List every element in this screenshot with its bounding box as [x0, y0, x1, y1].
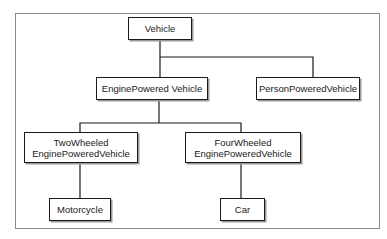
node-person-powered-vehicle: PersonPoweredVehicle	[256, 77, 360, 100]
node-motorcycle: Motorcycle	[49, 198, 111, 221]
node-two-wheeled-line1: TwoWheeled	[54, 137, 109, 148]
node-car: Car	[220, 198, 265, 221]
edge-engine-children	[80, 123, 241, 132]
node-two-wheeled-line2: EnginePoweredVehicle	[32, 148, 130, 159]
node-vehicle: Vehicle	[128, 17, 192, 40]
node-engine-powered-vehicle: EnginePowered Vehicle	[96, 77, 208, 100]
node-two-wheeled-engine-powered-vehicle: TwoWheeled EnginePoweredVehicle	[24, 132, 138, 163]
node-four-wheeled-line1: FourWheeled	[214, 137, 271, 148]
node-motorcycle-label: Motorcycle	[57, 204, 103, 215]
node-four-wheeled-engine-powered-vehicle: FourWheeled EnginePoweredVehicle	[185, 132, 301, 163]
node-four-wheeled-line2: EnginePoweredVehicle	[194, 148, 292, 159]
node-engine-powered-label: EnginePowered Vehicle	[102, 83, 202, 94]
node-car-label: Car	[235, 204, 250, 215]
node-vehicle-label: Vehicle	[145, 23, 176, 34]
node-person-powered-label: PersonPoweredVehicle	[259, 83, 357, 94]
edge-vehicle-person	[160, 57, 313, 77]
